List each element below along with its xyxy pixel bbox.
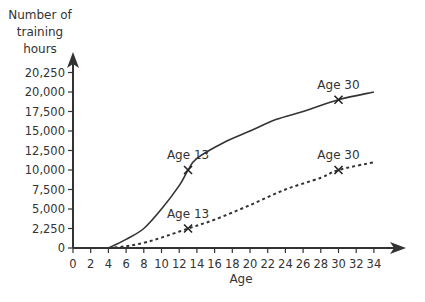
y-axis-label: Number oftraininghours	[8, 8, 72, 56]
y-tick-label: 20,000	[25, 85, 65, 99]
x-tick-label: 8	[140, 257, 147, 271]
y-tick-label: 0	[58, 241, 65, 255]
y-tick-label: 17,500	[25, 105, 65, 119]
x-tick-label: 0	[69, 257, 76, 271]
x-tick-label: 6	[122, 257, 129, 271]
y-tick-label: 10,000	[25, 163, 65, 177]
y-tick-label: 15,000	[25, 124, 65, 138]
annotation-label: Age 13	[167, 207, 209, 221]
x-tick-label: 22	[260, 257, 275, 271]
x-tick-label: 28	[313, 257, 328, 271]
x-tick-label: 4	[105, 257, 112, 271]
x-tick-label: 10	[154, 257, 169, 271]
y-tick-label: 20,250	[25, 66, 65, 80]
x-tick-label: 24	[278, 257, 293, 271]
annotation-label: Age 30	[317, 78, 359, 92]
x-tick-label: 30	[331, 257, 346, 271]
y-tick-label: 5,000	[32, 202, 65, 216]
x-tick-label: 12	[172, 257, 187, 271]
y-tick-label: 7,500	[32, 183, 65, 197]
solid-line	[108, 92, 374, 248]
annotation-label: Age 30	[317, 148, 359, 162]
series-lines	[108, 92, 374, 248]
x-axis-ticks: 0246810121416182022242628303234	[69, 248, 381, 271]
training-hours-chart: Number oftraininghours 02,2505,0007,5001…	[0, 0, 425, 302]
x-tick-label: 32	[349, 257, 364, 271]
y-tick-label: 2,250	[32, 222, 65, 236]
x-tick-label: 20	[243, 257, 258, 271]
x-tick-label: 26	[296, 257, 311, 271]
x-tick-label: 2	[87, 257, 94, 271]
x-tick-label: 16	[207, 257, 222, 271]
x-axis-label: Age	[229, 272, 252, 286]
dashed-line	[108, 162, 374, 248]
x-tick-label: 14	[190, 257, 205, 271]
x-tick-label: 18	[225, 257, 240, 271]
x-tick-label: 34	[367, 257, 382, 271]
x-marker-icon	[184, 166, 192, 174]
y-axis-label-line: hours	[23, 42, 57, 56]
y-axis-ticks: 02,2505,0007,50010,00012,50015,00017,500…	[25, 66, 73, 256]
y-axis-label-line: training	[17, 25, 64, 39]
annotation-label: Age 13	[167, 148, 209, 162]
y-axis-label-line: Number of	[8, 8, 72, 22]
y-tick-label: 12,500	[25, 144, 65, 158]
annotations: Age 13Age 30Age 13Age 30	[167, 78, 360, 233]
